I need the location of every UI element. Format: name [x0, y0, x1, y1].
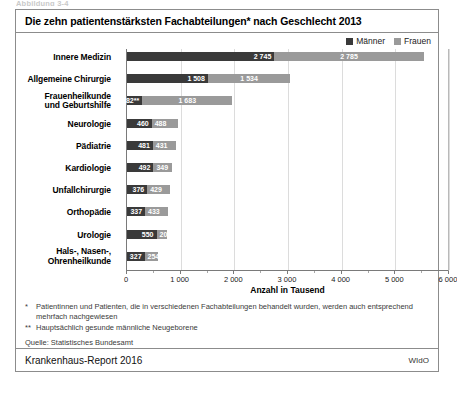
category-axis: Innere MedizinAllgemeine ChirurgieFrauen… — [16, 49, 111, 271]
figure-title-bar: Die zehn patientenstärksten Fachabteilun… — [16, 10, 438, 33]
bar-row: 1 5081 534 — [127, 74, 290, 83]
gridline — [449, 49, 450, 270]
legend-swatch-maenner — [346, 38, 353, 45]
bar-value-frauen: 254 — [145, 252, 160, 261]
bar-row: 282**1 683 — [127, 96, 232, 105]
x-tick-label: 0 — [124, 275, 128, 284]
legend-swatch-frauen — [394, 38, 401, 45]
bars-container: 2 7452 7851 5081 534282**1 6834604884814… — [127, 49, 448, 270]
x-tick — [341, 271, 342, 274]
bar-value-maenner: 337 — [130, 207, 145, 216]
x-tick-label: 5 000 — [385, 275, 404, 284]
x-tick-label: 6 000 — [439, 275, 457, 284]
bar-value-frauen: 1 683 — [179, 96, 197, 105]
x-tick-label: 2 000 — [224, 275, 243, 284]
bar-value-frauen: 2 785 — [340, 52, 358, 61]
bar-segment-maenner: 327 — [127, 252, 145, 261]
bar-row: 550200 — [127, 230, 167, 239]
plot-frame: 2 7452 7851 5081 534282**1 6834604884814… — [126, 49, 449, 271]
x-tick-label: 3 000 — [278, 275, 297, 284]
bar-row: 492349 — [127, 163, 172, 172]
bar-value-frauen: 429 — [147, 185, 162, 194]
bar-segment-maenner: 376 — [127, 185, 147, 194]
pre-caption: Abbildung 3-4 — [16, 0, 69, 6]
footer-publisher: WIdO — [409, 356, 429, 365]
bar-row: 460488 — [127, 119, 178, 128]
source-line: Quelle: Statistisches Bundesamt — [25, 338, 133, 347]
bar-value-maenner: 481 — [138, 141, 153, 150]
legend-item-maenner: Männer — [346, 36, 385, 46]
legend-label-frauen: Frauen — [404, 36, 431, 46]
x-minor-tick — [314, 271, 315, 273]
category-label: Neurologie — [16, 120, 111, 130]
bar-segment-frauen: 200 — [157, 230, 168, 239]
category-label: Allgemeine Chirurgie — [16, 75, 111, 85]
footnote-2-text: Hauptsächlich gesunde männliche Neugebor… — [36, 323, 429, 333]
footnote-2-mark: ** — [25, 323, 36, 333]
bar-segment-maenner: 2 745 — [127, 52, 274, 61]
bar-value-frauen: 433 — [145, 207, 160, 216]
bar-segment-maenner: 492 — [127, 163, 153, 172]
x-minor-tick — [368, 271, 369, 273]
footnote-1: * Patientinnen und Patienten, die in ver… — [25, 302, 429, 322]
bar-value-maenner: 1 508 — [187, 74, 208, 83]
footnote-1-mark: * — [25, 302, 36, 322]
bar-value-maenner: 282** — [122, 96, 142, 105]
category-label: Hals-, Nasen-,Ohrenheilkunde — [16, 247, 111, 266]
x-minor-tick — [421, 271, 422, 273]
chart-legend: Männer Frauen — [346, 35, 431, 47]
bar-segment-frauen: 433 — [145, 207, 168, 216]
bar-value-frauen: 200 — [157, 230, 172, 239]
bar-segment-frauen: 1 534 — [208, 74, 290, 83]
bar-segment-frauen: 254 — [145, 252, 159, 261]
bar-segment-frauen: 431 — [153, 141, 176, 150]
x-tick — [287, 271, 288, 274]
bar-value-frauen: 1 534 — [240, 74, 258, 83]
x-tick — [448, 271, 449, 274]
bar-segment-frauen: 488 — [152, 119, 178, 128]
gridline — [395, 49, 396, 270]
bar-segment-maenner: 460 — [127, 119, 152, 128]
bar-row: 337433 — [127, 207, 168, 216]
x-tick-label: 4 000 — [331, 275, 350, 284]
bar-segment-frauen: 429 — [147, 185, 170, 194]
bar-segment-maenner: 481 — [127, 141, 153, 150]
x-minor-tick — [153, 271, 154, 273]
page-title: Die zehn patientenstärksten Fachabteilun… — [25, 15, 362, 27]
footnote-1-text: Patientinnen und Patienten, die in versc… — [36, 302, 429, 322]
bar-value-maenner: 376 — [132, 185, 147, 194]
bar-value-frauen: 488 — [152, 119, 167, 128]
x-tick — [180, 271, 181, 274]
bar-row: 376429 — [127, 185, 170, 194]
bar-row: 2 7452 785 — [127, 52, 424, 61]
footer-report-title: Krankenhaus-Report 2016 — [25, 355, 142, 366]
bar-value-maenner: 492 — [139, 163, 154, 172]
footnote-2: ** Hauptsächlich gesunde männliche Neuge… — [25, 323, 429, 333]
bar-segment-maenner: 337 — [127, 207, 145, 216]
category-label: Urologie — [16, 231, 111, 241]
category-label: Unfallchirurgie — [16, 186, 111, 196]
bar-segment-maenner: 282** — [127, 96, 142, 105]
value-axis: Anzahl in Tausend 01 0002 0003 0004 0005… — [126, 271, 449, 299]
x-tick — [394, 271, 395, 274]
footnotes: * Patientinnen und Patienten, die in ver… — [25, 302, 429, 334]
category-label: Kardiologie — [16, 164, 111, 174]
figure-footer: Krankenhaus-Report 2016 WIdO — [16, 348, 438, 371]
legend-item-frauen: Frauen — [394, 36, 431, 46]
figure-box: Die zehn patientenstärksten Fachabteilun… — [15, 9, 439, 372]
bar-segment-maenner: 1 508 — [127, 74, 208, 83]
category-label: Innere Medizin — [16, 53, 111, 63]
category-label: Frauenheilkundeund Geburtshilfe — [16, 92, 111, 111]
bar-segment-frauen: 2 785 — [274, 52, 423, 61]
x-minor-tick — [260, 271, 261, 273]
category-label: Pädiatrie — [16, 142, 111, 152]
bar-value-maenner: 2 745 — [254, 52, 275, 61]
x-tick-label: 1 000 — [170, 275, 189, 284]
x-tick — [233, 271, 234, 274]
x-minor-tick — [207, 271, 208, 273]
bar-segment-frauen: 349 — [153, 163, 172, 172]
bar-row: 327254 — [127, 252, 158, 261]
bar-segment-frauen: 1 683 — [142, 96, 232, 105]
legend-label-maenner: Männer — [356, 36, 385, 46]
